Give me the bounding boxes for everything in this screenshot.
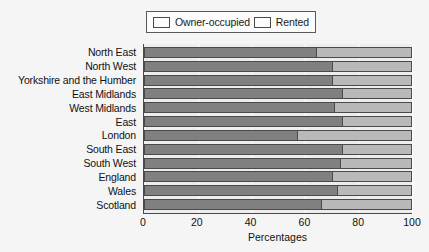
bar-segment-owner-occupied: [144, 144, 342, 155]
bar-row: [144, 102, 412, 113]
bar-segment-rented: [316, 47, 412, 58]
legend-entry-rented: Rented: [254, 16, 309, 28]
gridline: [412, 44, 413, 213]
legend-label-rented: Rented: [276, 16, 309, 28]
bar-segment-rented: [340, 158, 412, 169]
bar-segment-rented: [297, 130, 412, 141]
bar-row: [144, 47, 412, 58]
bar-row: [144, 116, 412, 127]
bar-segment-owner-occupied: [144, 102, 334, 113]
y-axis-label: England: [0, 172, 140, 183]
y-axis-label: Scotland: [0, 200, 140, 211]
bar-row: [144, 185, 412, 196]
bar-segment-rented: [332, 61, 412, 72]
bar-row: [144, 61, 412, 72]
bar-segment-rented: [337, 185, 412, 196]
x-axis-tick: 60: [299, 216, 311, 228]
bar-segment-rented: [332, 75, 412, 86]
bar-segment-rented: [321, 199, 412, 210]
y-axis-label: Yorkshire and the Humber: [0, 75, 140, 86]
y-axis-label: North West: [0, 61, 140, 72]
legend-entry-owner-occupied: Owner-occupied: [153, 16, 250, 28]
x-axis-tick: 0: [140, 216, 146, 228]
bar-segment-owner-occupied: [144, 88, 342, 99]
bar-segment-owner-occupied: [144, 199, 321, 210]
bar-row: [144, 130, 412, 141]
y-axis-label: North East: [0, 47, 140, 58]
bar-row: [144, 171, 412, 182]
x-axis-tick: 40: [245, 216, 257, 228]
y-axis-label: Wales: [0, 186, 140, 197]
bar-segment-rented: [342, 144, 412, 155]
bar-segment-owner-occupied: [144, 61, 332, 72]
legend-swatch-rented: [254, 17, 271, 28]
bar-segment-owner-occupied: [144, 130, 297, 141]
bar-segment-owner-occupied: [144, 75, 332, 86]
bar-row: [144, 75, 412, 86]
x-axis-tick: 100: [403, 216, 421, 228]
y-axis-label: West Midlands: [0, 103, 140, 114]
y-axis-label: South West: [0, 158, 140, 169]
y-axis-label: East Midlands: [0, 89, 140, 100]
y-axis-label: East: [0, 117, 140, 128]
bar-segment-owner-occupied: [144, 171, 332, 182]
bar-segment-owner-occupied: [144, 158, 340, 169]
bar-segment-rented: [334, 102, 412, 113]
bar-segment-rented: [342, 88, 412, 99]
legend-swatch-owner-occupied: [153, 17, 170, 28]
x-axis-tick: 80: [352, 216, 364, 228]
bar-segment-owner-occupied: [144, 116, 342, 127]
stacked-bar-chart: Owner-occupied Rented North EastNorth We…: [0, 0, 429, 252]
x-axis-tick-labels: 020406080100: [143, 216, 412, 230]
plot-area: [143, 44, 412, 214]
y-axis-label: London: [0, 130, 140, 141]
bar-row: [144, 158, 412, 169]
bar-segment-rented: [342, 116, 412, 127]
bar-row: [144, 144, 412, 155]
bar-row: [144, 88, 412, 99]
y-axis-category-labels: North EastNorth WestYorkshire and the Hu…: [0, 44, 140, 214]
legend-label-owner-occupied: Owner-occupied: [175, 16, 250, 28]
y-axis-label: South East: [0, 144, 140, 155]
bar-segment-owner-occupied: [144, 185, 337, 196]
bar-segment-owner-occupied: [144, 47, 316, 58]
chart-legend: Owner-occupied Rented: [146, 11, 316, 33]
bar-segment-rented: [332, 171, 412, 182]
x-axis-title: Percentages: [143, 231, 412, 243]
bar-row: [144, 199, 412, 210]
bar-rows: [144, 44, 412, 213]
x-axis-tick: 20: [191, 216, 203, 228]
